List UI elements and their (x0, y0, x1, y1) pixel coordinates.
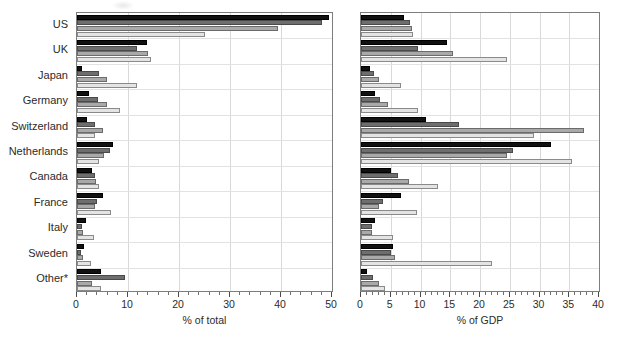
bar (77, 281, 92, 286)
bar (361, 159, 572, 164)
axis-tick-label: 20 (172, 299, 184, 310)
bar (77, 108, 120, 113)
axis-tick-minor (311, 292, 312, 295)
axis-tick-major (127, 292, 128, 297)
x-axis-left: % of total 01020304050 (76, 292, 333, 332)
bar-group (361, 242, 599, 267)
bar (77, 235, 94, 240)
axis-tick-label: 10 (121, 299, 133, 310)
axis-tick-minor (431, 292, 432, 295)
bar (361, 261, 492, 266)
bar (361, 255, 395, 260)
bar (361, 235, 393, 240)
axis-tick-minor (562, 292, 563, 295)
bar (77, 199, 97, 204)
category-label-france: France (34, 197, 68, 208)
bar (361, 117, 426, 122)
bar (77, 275, 125, 280)
axis-tick-minor (137, 292, 138, 295)
bar (361, 122, 459, 127)
axis-tick-major (229, 292, 230, 297)
bar (361, 250, 391, 255)
bar (77, 66, 82, 71)
bar (361, 230, 372, 235)
bar (361, 15, 404, 20)
bar (77, 230, 83, 235)
plot-area-right (360, 12, 600, 292)
bar (361, 244, 393, 249)
plot-area-left (76, 12, 333, 292)
axis-tick-minor (402, 292, 403, 295)
bar (361, 40, 447, 45)
scan-artifact (112, 1, 134, 10)
axis-tick-minor (378, 292, 379, 295)
axis-tick-minor (497, 292, 498, 295)
bar (77, 20, 322, 25)
x-axis-right: % of GDP 0510152025303540 (360, 292, 600, 332)
axis-tick-minor (574, 292, 575, 295)
bar (361, 224, 372, 229)
axis-tick-major (539, 292, 540, 297)
bar-group (77, 242, 332, 267)
axis-tick-minor (580, 292, 581, 295)
axis-tick-minor (467, 292, 468, 295)
bar (361, 32, 413, 37)
bar (361, 184, 438, 189)
axis-tick-major (598, 292, 599, 297)
axis-tick-minor (485, 292, 486, 295)
bar (77, 142, 113, 147)
axis-tick-major (331, 292, 332, 297)
bar (77, 153, 104, 158)
axis-tick-minor (414, 292, 415, 295)
axis-tick-label: 35 (562, 299, 574, 310)
bar (77, 97, 98, 102)
bar (77, 210, 111, 215)
bar (77, 148, 110, 153)
axis-tick-minor (592, 292, 593, 295)
axis-tick-minor (533, 292, 534, 295)
bar-group (361, 217, 599, 242)
axis-tick-minor (366, 292, 367, 295)
bar-group (77, 64, 332, 89)
bar (77, 244, 84, 249)
bar (361, 179, 409, 184)
axis-tick-minor (473, 292, 474, 295)
bar-group (361, 191, 599, 216)
bar (77, 83, 137, 88)
bar (77, 204, 95, 209)
axis-tick-minor (107, 292, 108, 295)
bar (361, 210, 417, 215)
bar (77, 122, 95, 127)
bar (77, 91, 89, 96)
bar (361, 128, 584, 133)
bar (77, 117, 87, 122)
axis-tick-minor (198, 292, 199, 295)
bar (77, 224, 82, 229)
axis-tick-label: 20 (473, 299, 485, 310)
axis-tick-major (479, 292, 480, 297)
x-axis-title-left: % of total (183, 314, 227, 326)
category-label-us: US (53, 19, 68, 30)
axis-tick-major (420, 292, 421, 297)
bar (77, 184, 99, 189)
axis-tick-major (509, 292, 510, 297)
axis-tick-label: 5 (387, 299, 393, 310)
category-label-canada: Canada (29, 171, 68, 182)
bar (361, 193, 401, 198)
bar (77, 51, 148, 56)
bar-group (77, 115, 332, 140)
bar-group (361, 140, 599, 165)
bar (77, 26, 278, 31)
bar (77, 71, 99, 76)
bar (77, 102, 107, 107)
bar (361, 71, 374, 76)
bar (77, 46, 137, 51)
bar (361, 204, 379, 209)
bar (361, 269, 367, 274)
axis-tick-minor (249, 292, 250, 295)
bar (361, 97, 380, 102)
bar-group (77, 89, 332, 114)
category-label-uk: UK (53, 44, 68, 55)
axis-tick-minor (455, 292, 456, 295)
axis-tick-minor (188, 292, 189, 295)
